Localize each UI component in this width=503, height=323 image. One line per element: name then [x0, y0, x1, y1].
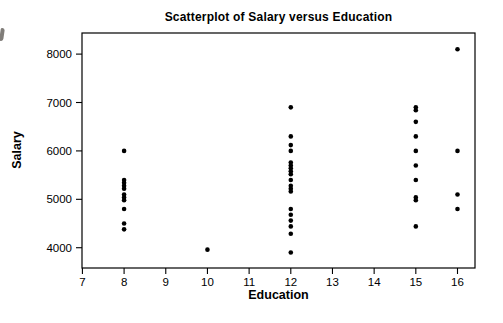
data-point	[414, 120, 419, 125]
data-point	[455, 192, 460, 197]
data-point	[288, 105, 293, 110]
data-point	[288, 218, 293, 223]
data-point	[455, 47, 460, 52]
data-point	[288, 143, 293, 148]
data-point	[414, 224, 419, 229]
data-point	[414, 178, 419, 183]
data-point	[414, 108, 419, 113]
data-point	[455, 149, 460, 154]
scatterplot-figure: Scatterplot of Salary versus Education 7…	[0, 0, 503, 323]
y-tick-label: 8000	[46, 48, 72, 60]
x-tick-label: 12	[284, 276, 297, 288]
x-tick-label: 8	[121, 276, 127, 288]
x-tick-label: 9	[163, 276, 169, 288]
data-point	[122, 198, 127, 203]
plot-area: 7891011121314151640005000600070008000	[0, 0, 503, 323]
data-point	[414, 163, 419, 168]
y-tick-label: 4000	[46, 242, 72, 254]
data-point	[288, 231, 293, 236]
x-tick-label: 16	[451, 276, 464, 288]
x-tick-label: 13	[326, 276, 339, 288]
data-point	[288, 189, 293, 194]
data-point	[288, 207, 293, 212]
data-point	[122, 221, 127, 226]
x-tick-label: 14	[368, 276, 381, 288]
x-tick-label: 10	[201, 276, 214, 288]
data-point	[414, 198, 419, 203]
data-point	[288, 178, 293, 183]
y-axis-title: Salary	[10, 115, 24, 185]
data-point	[288, 134, 293, 139]
x-tick-label: 7	[79, 276, 85, 288]
y-tick-label: 5000	[46, 193, 72, 205]
y-tick-label: 7000	[46, 97, 72, 109]
data-point	[288, 224, 293, 229]
x-axis-title: Education	[82, 288, 475, 302]
data-point	[288, 172, 293, 177]
data-point	[122, 149, 127, 154]
data-point	[122, 207, 127, 212]
data-point	[288, 250, 293, 255]
data-point	[205, 247, 210, 252]
y-tick-label: 6000	[46, 145, 72, 157]
x-tick-label: 11	[243, 276, 255, 288]
data-point	[414, 149, 419, 154]
data-point	[455, 207, 460, 212]
data-point	[288, 149, 293, 154]
data-point	[288, 213, 293, 218]
data-point	[122, 227, 127, 232]
data-point	[122, 186, 127, 191]
data-point	[414, 134, 419, 139]
x-tick-label: 15	[409, 276, 422, 288]
